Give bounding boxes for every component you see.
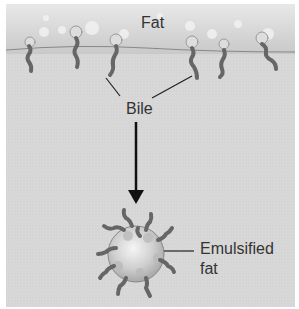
emulsified-fat-label: Emulsified: [200, 240, 274, 258]
emulsified-fat-label-line2: fat: [200, 260, 218, 278]
arrow-head: [128, 190, 144, 204]
diagram-graphics: [6, 4, 295, 307]
fat-label: Fat: [141, 14, 164, 32]
bile-label: Bile: [126, 100, 153, 118]
diagram-panel: Fat Bile Emulsified fat: [6, 4, 295, 307]
